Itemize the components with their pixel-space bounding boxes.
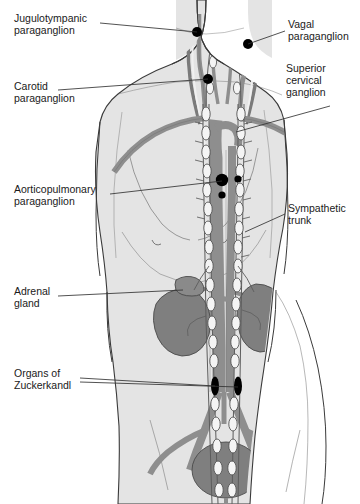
middle-cervical-ganglion-right [233,82,240,94]
zuckerkandl-organ-right-marker [234,377,242,396]
right-hip-inner-line [276,292,308,504]
inferior-vena-cava [230,146,232,392]
anatomical-figure: Jugulotympanicparaganglion Carotidparaga… [0,0,360,504]
aorticopulmonary-paraganglion-marker [216,174,228,186]
right-thigh-line [286,430,300,492]
aorticopulmonary-paraganglion-marker-right [234,175,241,182]
right-inner-branch [232,0,236,16]
torso-outline [96,0,288,504]
label-adrenal-gland: Adrenalgland [14,285,50,309]
label-jugulotympanic-paraganglion: Jugulotympanicparaganglion [14,12,87,36]
label-superior-cervical-ganglion: Superiorcervicalganglion [286,62,326,99]
label-aorticopulmonary-paraganglion: Aorticopulmonaryparaganglion [14,183,96,207]
superior-cervical-ganglion-right [230,56,237,68]
left-inner-branch [208,0,212,16]
aorta [215,120,219,392]
label-vagal-paraganglion: Vagalparaganglion [288,18,349,42]
aorticopulmonary-paraganglion-marker-lower [218,191,225,198]
right-hip-outer-edge [296,300,326,504]
neck-right-fill [248,0,272,58]
label-organs-of-zuckerkandl: Organs ofZuckerkandl [14,367,71,391]
label-sympathetic-trunk: Sympathetictrunk [288,202,346,226]
right-kidney [237,284,287,352]
superior-cervical-ganglion-left [209,56,216,68]
label-carotid-paraganglion: Carotidparaganglion [14,80,75,104]
